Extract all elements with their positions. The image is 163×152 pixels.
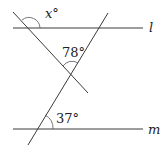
line-m-label: m xyxy=(148,123,160,136)
figure-canvas xyxy=(0,0,163,152)
angle-x-label: x° xyxy=(45,7,59,20)
angle-78-label: 78° xyxy=(62,46,85,59)
angle-37-label: 37° xyxy=(56,112,79,125)
geometry-figure: x° 78° 37° l m xyxy=(0,0,163,152)
angle-37-arc xyxy=(45,115,53,129)
line-l-label: l xyxy=(149,21,153,34)
angle-x-arc xyxy=(22,17,40,28)
